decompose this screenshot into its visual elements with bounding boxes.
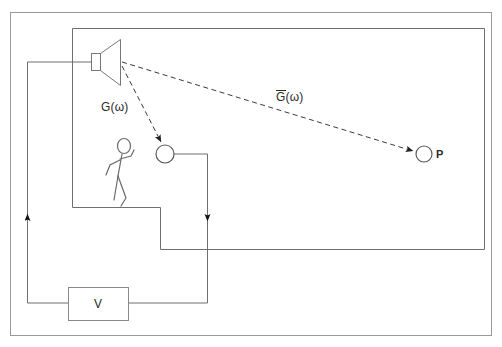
label-transfer-bar-args: (ω) xyxy=(286,90,304,104)
label-point-p: P xyxy=(436,148,443,160)
label-transfer-bar-symbol: G xyxy=(276,90,286,104)
label-amplifier: V xyxy=(94,297,102,311)
stick-figure-person xyxy=(106,139,134,207)
microphone-circle xyxy=(156,145,174,163)
wire-down-from-microphone xyxy=(128,154,208,303)
label-transfer-direct: G(ω) xyxy=(101,100,129,114)
loudspeaker-horn xyxy=(92,40,121,86)
wire-up-to-speaker xyxy=(28,62,92,303)
diagram-svg xyxy=(0,0,502,347)
label-transfer-bar: G(ω) xyxy=(276,90,304,104)
measurement-point-circle xyxy=(416,146,432,162)
diagram-canvas: G(ω) G(ω) P V xyxy=(0,0,502,347)
inner-room-rectangle xyxy=(73,29,485,250)
dashed-arrow-speaker-to-point-p xyxy=(122,62,413,151)
